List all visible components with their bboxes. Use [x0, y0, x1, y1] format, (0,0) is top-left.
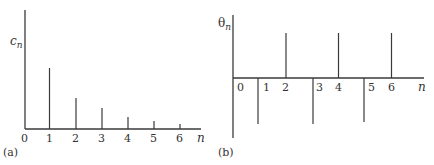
panel-a-tick-1: 1: [46, 132, 53, 145]
panel-b-tick-6: 6: [388, 81, 395, 94]
panel-a-tick-2: 2: [72, 132, 79, 145]
panel-b-x-label: n: [418, 80, 426, 94]
panel-b-phase-chart: θn 0 1 2 3 4 5 6 n (b): [218, 15, 426, 159]
panel-b-tick-4: 4: [335, 81, 342, 94]
panel-b-tick-3: 3: [316, 81, 323, 94]
panel-b-tick-0: 0: [237, 81, 244, 94]
panel-a-magnitude-chart: cn 0 1 2 3 4 5 6 n (a): [3, 10, 205, 159]
panel-b-y-label: θn: [218, 16, 231, 32]
figure: cn 0 1 2 3 4 5 6 n (a) θn 0 1 2 3 4 5 6 …: [0, 0, 434, 165]
panel-a-label: (a): [3, 146, 18, 159]
panel-b-label: (b): [218, 146, 234, 159]
panel-a-y-label: cn: [10, 34, 23, 50]
panel-a-tick-3: 3: [98, 132, 105, 145]
panel-a-x-label: n: [197, 131, 205, 145]
panel-a-tick-0: 0: [21, 132, 28, 145]
panel-a-tick-4: 4: [124, 132, 131, 145]
panel-b-tick-1: 1: [263, 81, 270, 94]
panel-a-tick-5: 5: [150, 132, 157, 145]
panel-b-tick-5: 5: [368, 81, 375, 94]
panel-b-tick-2: 2: [282, 81, 289, 94]
panel-a-tick-6: 6: [176, 132, 183, 145]
